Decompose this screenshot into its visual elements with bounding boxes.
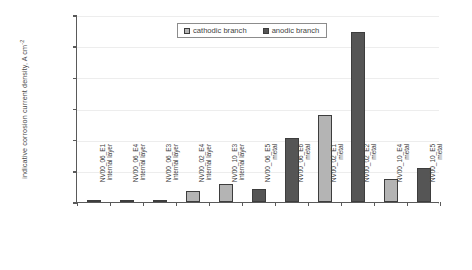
x-axis-label-line1: NV00_02_E4 bbox=[198, 144, 205, 182]
x-axis-label-line2: metal bbox=[271, 144, 278, 206]
x-axis-label: NV00_02_E2metal bbox=[363, 144, 378, 206]
x-axis-label-line1: NV00_06_E4 bbox=[132, 144, 139, 182]
x-axis-label-line1: NV00_06_E1 bbox=[99, 144, 106, 182]
y-axis-title: indicative corrosion current density, A … bbox=[19, 9, 29, 209]
x-axis-label-line1: NV00_02_E2 bbox=[363, 144, 370, 182]
x-axis-label: NV00_06_E5metal bbox=[264, 144, 279, 206]
legend-entry[interactable]: cathodic branch bbox=[184, 26, 247, 35]
x-axis-label-line1: NV00_06_E3 bbox=[165, 144, 172, 182]
x-axis-label-line1: NV00_10_E5 bbox=[429, 144, 436, 182]
x-axis-label: NV00_10_E5metal bbox=[429, 144, 444, 206]
x-axis-label-line1: NV00_06_E6 bbox=[297, 144, 304, 182]
legend: cathodic branchanodic branch bbox=[177, 23, 327, 38]
bar-chart: indicative corrosion current density, A … bbox=[0, 0, 472, 270]
x-axis-label: NV00_06_E6metal bbox=[297, 144, 312, 206]
legend-entry[interactable]: anodic branch bbox=[263, 26, 320, 35]
legend-swatch-icon bbox=[263, 28, 269, 34]
x-axis-label-line1: NV00_02_E1 bbox=[330, 144, 337, 182]
x-axis-label-line2: internal layer bbox=[172, 144, 179, 206]
x-axis-label-line2: internal layer bbox=[106, 144, 113, 206]
x-axis-label: NV00_10_E4metal bbox=[396, 144, 411, 206]
x-axis-label: NV00_02_E4internal layer bbox=[198, 144, 213, 206]
x-axis-label-line2: internal layer bbox=[205, 144, 212, 206]
x-axis-label-line2: internal layer bbox=[238, 144, 245, 206]
x-axis-label: NV00_06_E1internal layer bbox=[99, 144, 114, 206]
x-axis-label-line2: metal bbox=[337, 144, 344, 206]
legend-swatch-icon bbox=[184, 28, 190, 34]
x-axis-label-line1: NV00_06_E5 bbox=[264, 144, 271, 182]
legend-label: anodic branch bbox=[272, 26, 320, 35]
x-axis-label-line2: metal bbox=[436, 144, 443, 206]
y-axis-title-exponent: -2 bbox=[19, 40, 25, 45]
x-axis-label-line1: NV00_10_E4 bbox=[396, 144, 403, 182]
legend-label: cathodic branch bbox=[193, 26, 247, 35]
x-axis-label-line2: metal bbox=[403, 144, 410, 206]
x-axis-label: NV00_06_E3internal layer bbox=[165, 144, 180, 206]
x-axis-label-line2: internal layer bbox=[139, 144, 146, 206]
x-axis-label-line1: NV00_10_E3 bbox=[231, 144, 238, 182]
x-axis-label-line2: metal bbox=[370, 144, 377, 206]
x-axis-labels: NV00_06_E1internal layerNV00_06_E4intern… bbox=[0, 206, 472, 270]
x-axis-label: NV00_06_E4internal layer bbox=[132, 144, 147, 206]
plot-area: 1.2E-041.0E-048.0E-056.0E-054.0E-052.0E-… bbox=[76, 16, 439, 203]
x-axis-label: NV00_02_E1metal bbox=[330, 144, 345, 206]
y-axis-title-text: indicative corrosion current density, A … bbox=[20, 45, 29, 179]
x-axis-label: NV00_10_E3internal layer bbox=[231, 144, 246, 206]
x-axis-label-line2: metal bbox=[304, 144, 311, 206]
